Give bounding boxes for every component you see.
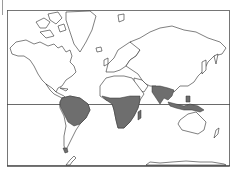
iceland — [96, 47, 102, 52]
japan — [202, 60, 206, 74]
madagascar-shaded — [138, 110, 141, 120]
tierra-del-fuego — [63, 148, 68, 153]
caribbean — [60, 88, 68, 91]
south-america-shaded — [60, 96, 90, 126]
africa-shaded — [102, 96, 140, 128]
australia — [178, 112, 206, 134]
new-zealand — [214, 128, 219, 138]
greenland — [66, 11, 96, 52]
svalbard — [118, 14, 124, 22]
north-america — [10, 40, 76, 92]
arctic-islands — [36, 12, 66, 38]
antarctic-peninsula — [66, 156, 76, 165]
world-map — [0, 0, 233, 172]
philippines-shaded — [186, 96, 190, 102]
southeast-asia-shaded — [168, 102, 204, 112]
south-asia-shaded — [152, 86, 174, 104]
british-isles — [104, 58, 108, 66]
antarctica-coast — [146, 161, 226, 165]
kamchatka — [214, 54, 218, 64]
